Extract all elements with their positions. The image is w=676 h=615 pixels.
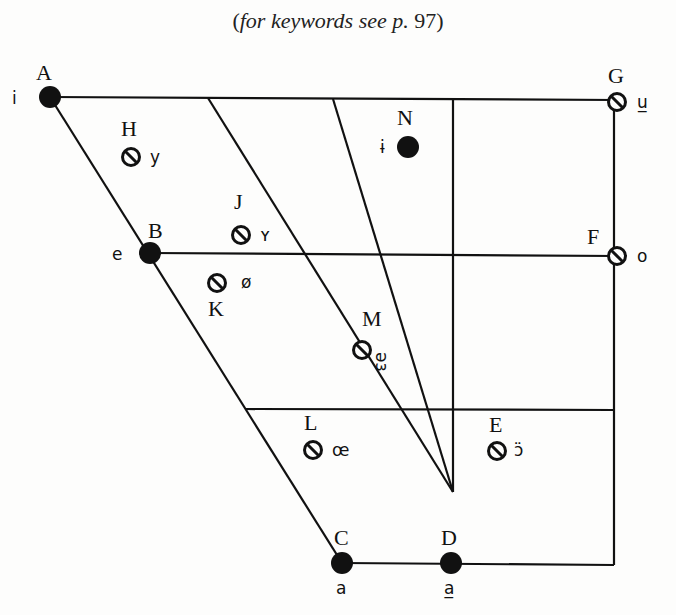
point-E-rounded-icon [489, 443, 506, 460]
label-L: L [304, 410, 317, 435]
symbol-L: œ [332, 440, 349, 460]
label-K: K [208, 296, 224, 321]
label-J: J [234, 189, 243, 214]
left-slant-line [50, 97, 342, 563]
label-H: H [121, 116, 137, 141]
label-F: F [587, 224, 599, 249]
symbol-G: u̲ [637, 92, 648, 113]
point-G-rounded-icon [609, 94, 626, 111]
point-M-rounded-icon [354, 342, 371, 359]
point-J-rounded-icon [233, 227, 250, 244]
point-A-filled-dot [39, 86, 61, 108]
symbol-E: ɔ̈ [514, 440, 523, 460]
symbol-D: a̲ [444, 578, 454, 599]
mid-line [150, 253, 617, 256]
symbol-H: y [150, 147, 160, 167]
label-E: E [489, 412, 502, 437]
symbol-K: ø [241, 272, 251, 292]
converge-line-1 [208, 98, 453, 492]
filled-points [39, 86, 462, 574]
lower-line [245, 409, 614, 410]
symbol-M: əɜ [372, 352, 392, 372]
label-C: C [334, 525, 349, 550]
point-F-rounded-icon [609, 248, 626, 265]
bottom-line [342, 563, 614, 565]
label-A: A [36, 60, 52, 85]
label-M: M [362, 306, 382, 331]
symbol-F: o [637, 246, 647, 266]
symbol-C: a [336, 578, 346, 598]
point-B-filled-dot [139, 242, 161, 264]
label-G: G [608, 63, 624, 88]
label-N: N [397, 105, 413, 130]
label-B: B [148, 218, 163, 243]
point-N-filled-dot [397, 136, 419, 158]
converge-line-2 [333, 99, 453, 492]
point-C-filled-dot [331, 552, 353, 574]
point-L-rounded-icon [305, 442, 322, 459]
vowel-chart: A B C D E F G H J K L M N i e a a̲ ɔ̈ o … [0, 0, 676, 615]
symbol-N: ɨ [380, 137, 385, 157]
point-K-rounded-icon [209, 275, 226, 292]
label-D: D [441, 525, 457, 550]
symbol-B: e [112, 244, 122, 264]
point-letters: A B C D E F G H J K L M N [36, 60, 624, 550]
symbol-A: i [12, 88, 17, 108]
rounded-points [123, 94, 626, 460]
point-H-rounded-icon [123, 149, 140, 166]
point-D-filled-dot [440, 552, 462, 574]
chart-lines [50, 97, 617, 565]
symbol-J: ʏ [260, 225, 270, 245]
ipa-symbols: i e a a̲ ɔ̈ o u̲ y ʏ ø œ əɜ ɨ [12, 88, 648, 599]
